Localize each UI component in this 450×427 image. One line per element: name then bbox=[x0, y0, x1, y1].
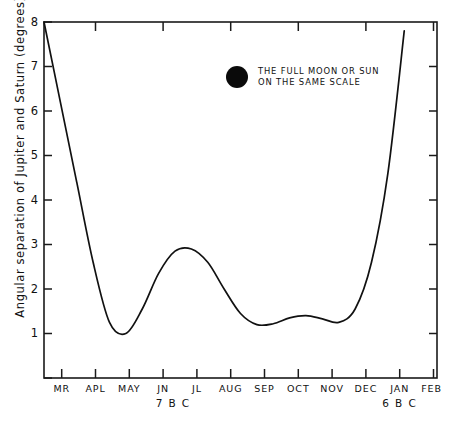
x-axis-ticks-top bbox=[96, 22, 434, 31]
era-label-7bc: 7 B C bbox=[143, 397, 203, 409]
y-tick-label-7: 7 bbox=[22, 59, 38, 73]
legend-line-2: ON THE SAME SCALE bbox=[258, 77, 361, 88]
y-tick-label-4: 4 bbox=[22, 193, 38, 207]
y-tick-label-1: 1 bbox=[22, 326, 38, 340]
chart-figure: Angular separation of Jupiter and Saturn… bbox=[0, 0, 450, 427]
y-tick-label-2: 2 bbox=[22, 282, 38, 296]
x-tick-label-feb: FEB bbox=[412, 383, 450, 394]
y-axis-ticks bbox=[44, 22, 52, 378]
legend-line-1: THE FULL MOON OR SUN bbox=[258, 66, 379, 77]
y-axis-ticks-right bbox=[429, 67, 437, 334]
plot-area bbox=[0, 0, 450, 427]
y-tick-label-5: 5 bbox=[22, 148, 38, 162]
x-axis-ticks-bottom bbox=[62, 369, 434, 378]
era-label-6bc: 6 B C bbox=[370, 397, 430, 409]
y-tick-label-8: 8 bbox=[22, 15, 38, 29]
y-tick-label-6: 6 bbox=[22, 104, 38, 118]
full-moon-marker-icon bbox=[226, 66, 248, 88]
y-tick-label-3: 3 bbox=[22, 237, 38, 251]
